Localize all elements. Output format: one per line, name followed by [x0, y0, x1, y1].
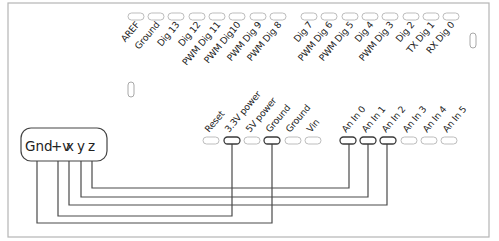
- pin-dig-13: [168, 13, 184, 20]
- pin-ground-1: [264, 137, 280, 144]
- wiring-diagram: AREF Ground Dig 13 Dig 12 PWM Dig 11 PWM…: [0, 0, 499, 241]
- mounting-hole-left: [128, 82, 134, 97]
- pin-an-in-3: [401, 137, 417, 144]
- pin-3v3-power: [224, 137, 240, 144]
- pin-pwm-dig-9: [250, 13, 266, 20]
- sensor-pin-z: z: [88, 138, 95, 154]
- pin-pwm-dig-3: [382, 13, 398, 20]
- pin-dig-7: [301, 13, 317, 20]
- accelerometer-sensor: Gnd +v x y z: [21, 128, 107, 161]
- pin-rx-dig-0: [443, 13, 459, 20]
- pin-an-in-0: [340, 137, 356, 144]
- pin-aref: [128, 13, 144, 20]
- pin-dig-12: [189, 13, 205, 20]
- pin-an-in-2: [380, 137, 396, 144]
- pin-an-in-1: [360, 137, 376, 144]
- sensor-pin-gnd: Gnd: [25, 138, 53, 154]
- pin-pwm-dig-10: [229, 13, 245, 20]
- sensor-pin-x: x: [66, 138, 74, 154]
- pin-dig-2: [403, 13, 419, 20]
- pin-an-in-4: [421, 137, 437, 144]
- pin-pwm-dig-8: [270, 13, 286, 20]
- mounting-hole-right: [470, 33, 476, 48]
- pin-pwm-dig-6: [321, 13, 337, 20]
- pin-reset: [203, 137, 219, 144]
- pin-pwm-dig-5: [342, 13, 358, 20]
- pin-tx-dig-1: [423, 13, 439, 20]
- pin-5v-power: [244, 137, 260, 144]
- pin-ground-top: [148, 13, 164, 20]
- pin-pwm-dig-11: [209, 13, 225, 20]
- pin-vin: [305, 137, 321, 144]
- pin-an-in-5: [441, 137, 457, 144]
- pin-dig-4: [362, 13, 378, 20]
- sensor-pin-y: y: [77, 138, 85, 154]
- pin-ground-2: [285, 137, 301, 144]
